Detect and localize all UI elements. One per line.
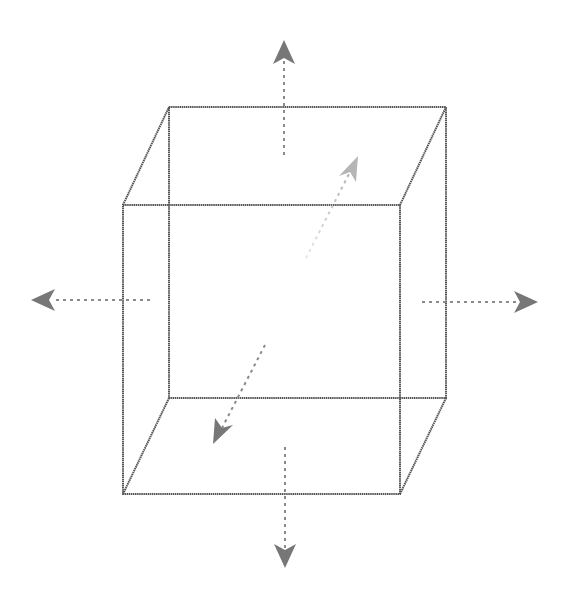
cube-edge-bottom-right	[400, 398, 446, 494]
cube-back-face	[169, 107, 446, 398]
arrow-back-icon	[306, 156, 358, 258]
arrow-down-icon	[274, 447, 296, 568]
cube-front-face	[123, 205, 400, 494]
cube-diagram	[0, 0, 563, 597]
arrow-up-icon	[273, 40, 295, 155]
direction-arrows	[31, 40, 538, 568]
arrow-front-icon	[213, 345, 265, 444]
cube-edge-top-right	[400, 107, 446, 205]
cube-edge-top-left	[123, 107, 169, 205]
arrow-right-icon	[422, 291, 538, 313]
cube-diagram-svg	[0, 0, 563, 597]
cube-wireframe	[123, 107, 446, 494]
cube-edge-bottom-left	[123, 398, 169, 494]
arrow-left-icon	[31, 289, 150, 311]
